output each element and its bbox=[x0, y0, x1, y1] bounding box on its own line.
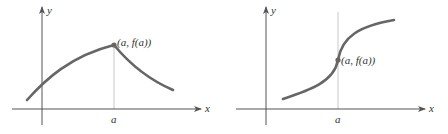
right-point-label: (a, f(a)) bbox=[341, 55, 375, 66]
right-x-axis-label: x bbox=[429, 103, 434, 114]
left-graph bbox=[12, 7, 201, 125]
right-tick-label-a: a bbox=[335, 114, 341, 125]
left-y-axis-label: y bbox=[47, 5, 52, 16]
right-point bbox=[335, 57, 340, 62]
left-x-axis-label: x bbox=[205, 103, 210, 114]
graphs-canvas bbox=[0, 0, 448, 134]
right-y-axis-label: y bbox=[271, 5, 276, 16]
figure: y x a (a, f(a)) y x a (a, f(a)) bbox=[0, 0, 448, 134]
left-tick-label-a: a bbox=[111, 114, 117, 125]
left-point bbox=[111, 42, 116, 47]
left-point-label: (a, f(a)) bbox=[117, 37, 151, 48]
right-graph bbox=[236, 7, 425, 125]
left-curve bbox=[27, 45, 173, 100]
